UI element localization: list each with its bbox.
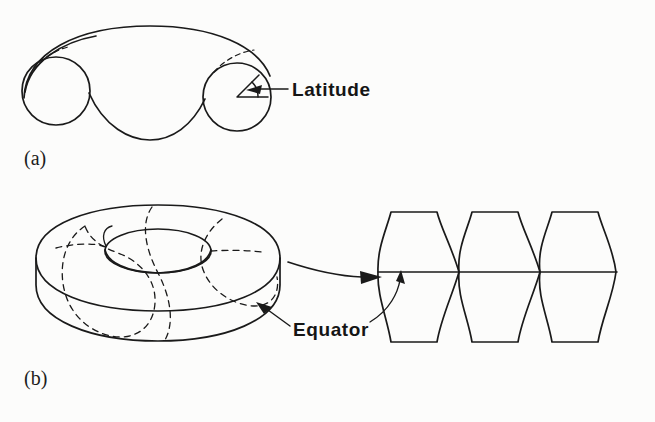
figure-drawing [0, 0, 655, 422]
equator-callout-label: Equator [293, 320, 369, 339]
figure-container: (a) (b) Latitude Equator [0, 0, 655, 422]
panel-label-b: (b) [24, 368, 47, 388]
latitude-callout-label: Latitude [292, 80, 371, 99]
panel-label-a: (a) [24, 148, 46, 168]
